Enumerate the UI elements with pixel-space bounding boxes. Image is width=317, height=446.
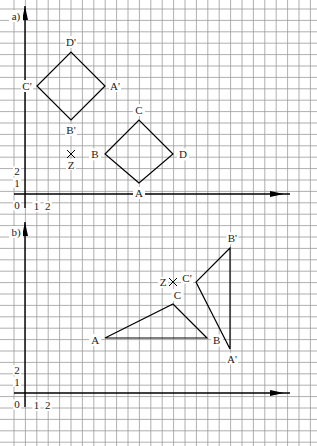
panel-label: a) xyxy=(12,10,21,23)
vertex-label: C' xyxy=(22,80,31,92)
y-tick-label: 2 xyxy=(14,364,20,376)
y-tick-label: 1 xyxy=(14,177,20,189)
panel-label: b) xyxy=(11,226,21,239)
y-tick-label: 0 xyxy=(14,398,20,410)
triangle-ABC xyxy=(105,304,207,338)
center-label: Z xyxy=(68,159,75,171)
vertex-label: A' xyxy=(227,353,237,365)
vertex-label: A xyxy=(135,187,143,199)
vertex-label: B' xyxy=(228,232,237,244)
vertex-label: C' xyxy=(182,272,191,284)
vertex-label: C xyxy=(135,104,142,116)
x-axis-arrow-icon xyxy=(270,390,284,396)
vertex-label: D xyxy=(179,148,187,160)
x-tick-label: 2 xyxy=(45,200,51,212)
vertex-label: B' xyxy=(66,124,75,136)
x-tick-label: 2 xyxy=(45,399,51,411)
x-axis-arrow-icon xyxy=(270,191,284,197)
vertex-label: C xyxy=(174,289,181,301)
grid-canvas: a)12012ABCDA'B'C'D'Zb)12012ABCA'B'C'Z xyxy=(0,0,317,446)
center-label: Z xyxy=(160,276,167,288)
diagram: a)12012ABCDA'B'C'D'Zb)12012ABCA'B'C'Z xyxy=(0,0,317,446)
x-tick-label: 1 xyxy=(34,399,40,411)
vertex-label: D' xyxy=(66,36,76,48)
y-tick-label: 1 xyxy=(14,376,20,388)
vertex-label: B xyxy=(91,148,98,160)
vertex-label: A' xyxy=(110,80,120,92)
y-tick-label: 2 xyxy=(14,165,20,177)
y-tick-label: 0 xyxy=(14,199,20,211)
vertex-label: B xyxy=(213,334,220,346)
vertex-label: A xyxy=(91,334,99,346)
x-tick-label: 1 xyxy=(34,200,40,212)
